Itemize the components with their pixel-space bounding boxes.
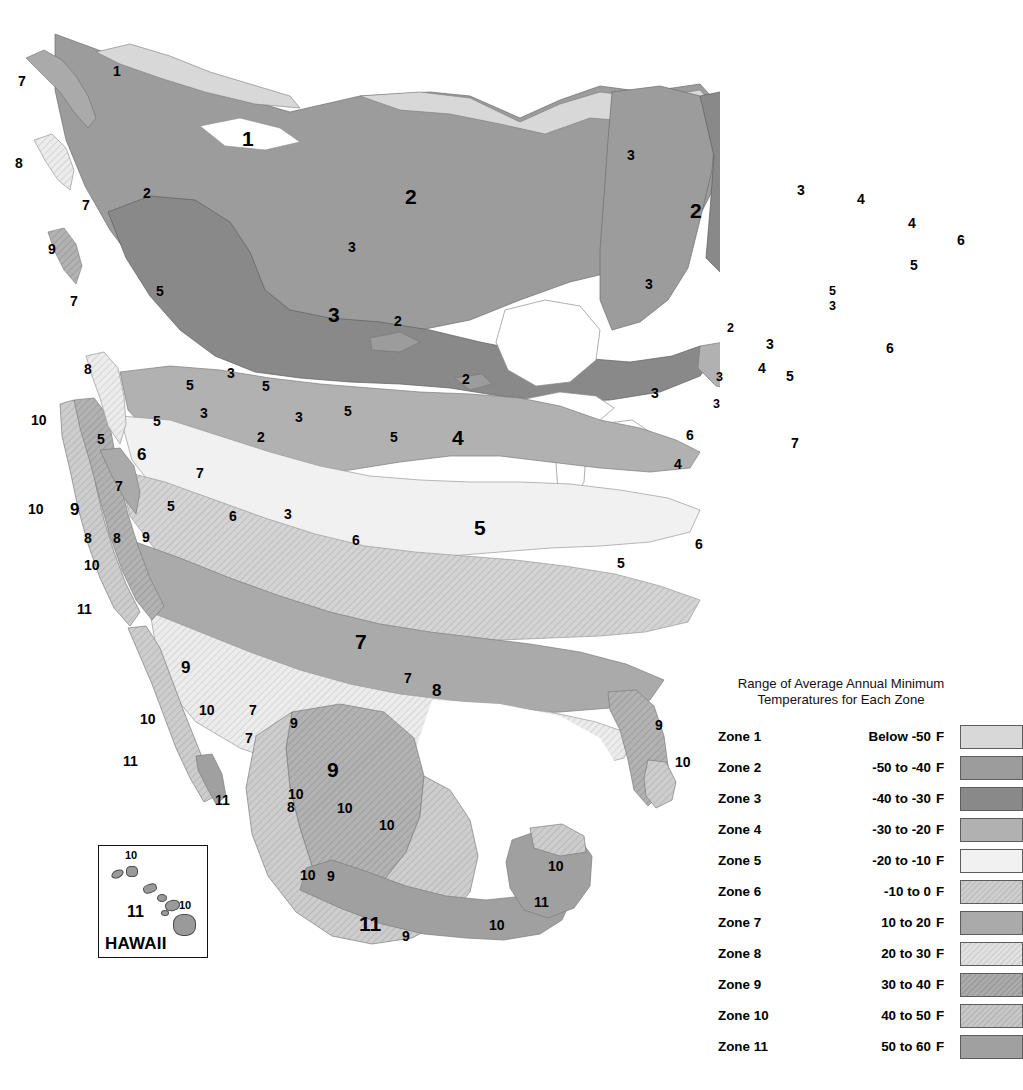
legend-zone-name: Zone 8 <box>718 946 761 961</box>
map-zone-label: 7 <box>18 74 26 88</box>
map-zone-label: 5 <box>390 430 398 444</box>
map-zone-label: 5 <box>156 284 164 298</box>
map-zone-label: 3 <box>200 406 208 420</box>
legend-zone-name: Zone 5 <box>718 853 761 868</box>
map-zone-label: 7 <box>115 479 123 493</box>
map-zone-label: 11 <box>359 913 381 934</box>
hawaii-island-big-island <box>173 914 196 936</box>
map-zone-label: 3 <box>348 240 356 254</box>
legend-temperature-range: -40 to -30 <box>813 791 931 806</box>
map-zone-label: 3 <box>284 507 292 521</box>
legend-title-line-1: Range of Average Annual Minimum <box>712 676 970 692</box>
zone-4-region-maritimes <box>698 340 720 392</box>
map-zone-label: 7 <box>196 466 204 480</box>
legend-unit: F <box>936 1008 944 1023</box>
map-zone-label: 3 <box>716 371 723 384</box>
legend-row: Zone 1040 to 50F <box>712 1004 981 1035</box>
map-zone-label: 8 <box>113 531 121 545</box>
map-zone-label: 10 <box>31 413 47 427</box>
legend-temperature-range: 10 to 20 <box>813 915 931 930</box>
map-zone-label: 1 <box>113 64 121 78</box>
map-zone-label: 4 <box>674 457 682 471</box>
map-zone-label: 2 <box>394 314 402 328</box>
legend-zone-name: Zone 4 <box>718 822 761 837</box>
map-zone-label: 6 <box>352 533 360 547</box>
map-zone-label: 5 <box>97 432 105 446</box>
map-zone-label: 7 <box>404 671 412 685</box>
map-zone-label: 8 <box>287 800 295 814</box>
map-zone-label: 2 <box>690 200 702 221</box>
hawaii-island-lanai <box>157 894 167 902</box>
hawaii-zone-label: 11 <box>127 904 144 920</box>
legend-color-swatch <box>960 1004 1023 1028</box>
map-zone-label: 8 <box>432 682 441 699</box>
map-zone-label: 9 <box>655 718 663 732</box>
legend-zone-name: Zone 6 <box>718 884 761 899</box>
legend-temperature-range: 40 to 50 <box>813 1008 931 1023</box>
legend-zone-name: Zone 3 <box>718 791 761 806</box>
map-zone-label: 8 <box>84 531 92 545</box>
legend-unit: F <box>936 729 944 744</box>
legend: Range of Average Annual Minimum Temperat… <box>712 676 981 1066</box>
legend-row: Zone 2-50 to -40F <box>712 756 981 787</box>
legend-unit: F <box>936 760 944 775</box>
map-zone-label: 9 <box>290 716 298 730</box>
legend-row: Zone 1150 to 60F <box>712 1035 981 1066</box>
legend-color-swatch <box>960 942 1023 966</box>
legend-temperature-range: Below -50 <box>813 729 931 744</box>
legend-zone-name: Zone 10 <box>718 1008 769 1023</box>
map-zone-label: 5 <box>153 414 161 428</box>
map-zone-label: 7 <box>70 294 78 308</box>
map-zone-label: 7 <box>355 631 367 652</box>
map-zone-label: 3 <box>766 337 774 351</box>
legend-color-swatch <box>960 973 1023 997</box>
legend-unit: F <box>936 884 944 899</box>
legend-temperature-range: 50 to 60 <box>813 1039 931 1054</box>
map-zone-label: 2 <box>257 430 265 444</box>
hawaii-zone-label: 10 <box>125 850 137 861</box>
legend-unit: F <box>936 822 944 837</box>
map-zone-label: 9 <box>327 869 335 883</box>
map-zone-label: 5 <box>786 369 794 383</box>
legend-zone-name: Zone 7 <box>718 915 761 930</box>
legend-color-swatch <box>960 911 1023 935</box>
legend-zone-name: Zone 9 <box>718 977 761 992</box>
map-zone-label: 10 <box>489 918 505 932</box>
map-zone-label: 3 <box>797 183 805 197</box>
map-zone-label: 9 <box>181 659 190 676</box>
map-zone-label: 10 <box>140 712 156 726</box>
map-zone-label: 11 <box>215 793 230 807</box>
map-zone-label: 9 <box>402 929 410 943</box>
legend-unit: F <box>936 946 944 961</box>
map-zone-label: 4 <box>857 192 865 206</box>
map-zone-label: 11 <box>123 754 138 768</box>
map-zone-label: 7 <box>82 198 90 212</box>
hawaii-island-kahoolawe <box>161 910 169 916</box>
map-zone-label: 8 <box>15 156 23 170</box>
map-zone-label: 9 <box>70 501 79 518</box>
legend-unit: F <box>936 791 944 806</box>
map-zone-label: 8 <box>84 362 92 376</box>
map-zone-label: 11 <box>77 602 92 616</box>
map-zone-label: 3 <box>627 148 635 162</box>
map-zone-label: 4 <box>758 361 766 375</box>
hawaii-inset-title: HAWAII <box>105 934 167 954</box>
map-zone-label: 4 <box>452 427 464 448</box>
legend-unit: F <box>936 853 944 868</box>
legend-row: Zone 3-40 to -30F <box>712 787 981 818</box>
legend-row: Zone 820 to 30F <box>712 942 981 973</box>
legend-color-swatch <box>960 880 1023 904</box>
map-zone-label: 5 <box>910 258 918 272</box>
legend-unit: F <box>936 915 944 930</box>
map-zone-label: 3 <box>651 386 659 400</box>
map-zone-label: 9 <box>327 759 339 780</box>
map-zone-label: 10 <box>548 859 564 873</box>
map-zone-label: 6 <box>695 537 703 551</box>
legend-row: Zone 930 to 40F <box>712 973 981 1004</box>
map-zone-label: 2 <box>727 322 734 335</box>
map-zone-label: 2 <box>405 186 417 207</box>
legend-color-swatch <box>960 725 1023 749</box>
map-zone-label: 3 <box>227 366 235 380</box>
map-zone-label: 3 <box>713 398 720 411</box>
map-zone-label: 5 <box>617 556 625 570</box>
